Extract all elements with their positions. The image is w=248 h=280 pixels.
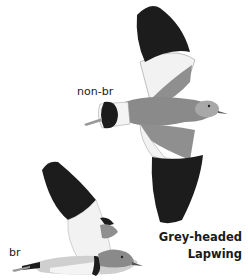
species-name-line2: Lapwing: [159, 246, 242, 263]
illustration-plate: non-br br Grey-headed Lapwing: [0, 0, 248, 280]
non-breeding-label: non-br: [77, 85, 113, 98]
species-name: Grey-headed Lapwing: [159, 229, 242, 263]
species-name-line1: Grey-headed: [159, 229, 242, 246]
breeding-label: br: [9, 246, 21, 259]
